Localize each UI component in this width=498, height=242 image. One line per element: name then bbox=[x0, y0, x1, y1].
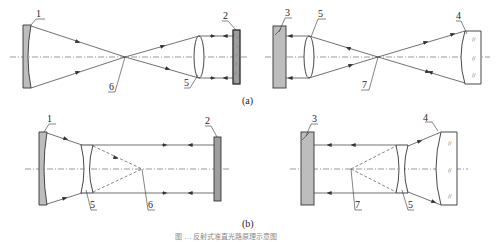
optical-diagram: 1 2 6 5 // // // bbox=[0, 0, 498, 242]
svg-text://: // bbox=[472, 72, 476, 78]
flat-plate-3 bbox=[273, 26, 286, 88]
label-1: 1 bbox=[47, 113, 52, 124]
subfigure-a-right: // // // 3 5 7 4 bbox=[265, 7, 490, 90]
subfigure-label-b: (b) bbox=[242, 218, 254, 230]
label-2: 2 bbox=[223, 10, 228, 21]
label-7: 7 bbox=[355, 199, 360, 210]
label-6: 6 bbox=[148, 199, 153, 210]
label-1: 1 bbox=[36, 8, 41, 19]
label-5: 5 bbox=[184, 77, 189, 88]
convex-lens-5 bbox=[194, 36, 204, 78]
label-4: 4 bbox=[456, 10, 461, 21]
label-6: 6 bbox=[109, 81, 114, 92]
flat-plate-2 bbox=[214, 137, 221, 201]
subfigure-b-right: // // // 3 7 5 4 bbox=[290, 112, 468, 210]
svg-text://: // bbox=[472, 36, 476, 42]
flat-plate-3 bbox=[301, 132, 314, 205]
concave-mirror-1 bbox=[39, 132, 47, 205]
label-4: 4 bbox=[423, 112, 428, 123]
subfigure-a-left: 1 2 6 5 bbox=[10, 8, 248, 92]
label-7: 7 bbox=[362, 79, 367, 90]
svg-text://: // bbox=[448, 140, 452, 146]
subfigure-label-a: (a) bbox=[242, 95, 253, 107]
svg-text://: // bbox=[472, 55, 476, 61]
svg-text://: // bbox=[448, 167, 452, 173]
label-5: 5 bbox=[318, 8, 323, 19]
figure-caption: 图 … 反射式准直光路原理示意图 bbox=[175, 232, 277, 241]
svg-text://: // bbox=[448, 193, 452, 199]
label-2: 2 bbox=[205, 115, 210, 126]
label-5: 5 bbox=[408, 199, 413, 210]
label-3: 3 bbox=[285, 7, 290, 18]
concave-mirror-4 bbox=[461, 31, 481, 84]
concave-mirror-1 bbox=[23, 25, 31, 88]
label-3: 3 bbox=[312, 113, 317, 124]
convex-lens-5 bbox=[304, 36, 314, 78]
label-5: 5 bbox=[90, 199, 95, 210]
subfigure-b-left: 1 2 5 6 bbox=[25, 113, 230, 210]
concave-mirror-4 bbox=[436, 132, 457, 205]
